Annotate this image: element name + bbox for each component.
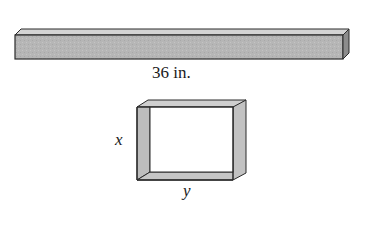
bar-end-face: [343, 29, 349, 59]
rectangular-frame: [137, 100, 246, 180]
frame-left-side: [137, 107, 150, 180]
bar-length-label: 36 in.: [152, 63, 191, 83]
frame-bottom-label: y: [183, 181, 191, 201]
frame-right-side: [233, 100, 246, 180]
bar-front-face: [15, 35, 343, 59]
frame-top-face: [137, 100, 246, 107]
bar-top-face: [15, 29, 349, 35]
wood-bar: [15, 29, 349, 59]
frame-opening: [150, 107, 233, 172]
frame-bottom-face: [137, 172, 235, 180]
frame-side-label: x: [115, 130, 123, 150]
